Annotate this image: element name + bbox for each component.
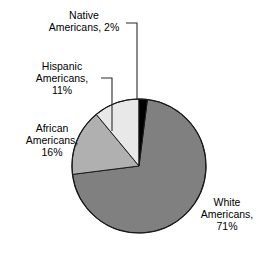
slice-label-hispanic-americans-line1: Hispanic (16, 60, 108, 72)
slice-label-white-americans-line2: Americans, (190, 208, 264, 220)
slice-label-hispanic-americans-line2: Americans, (16, 72, 108, 84)
slice-label-hispanic-americans: Hispanic Americans, 11% (16, 60, 108, 97)
slice-label-white-americans-line1: White (190, 196, 264, 208)
slice-label-white-americans: White Americans, 71% (190, 196, 264, 233)
slice-label-hispanic-americans-line3: 11% (16, 84, 108, 96)
slice-label-white-americans-line3: 71% (190, 220, 264, 232)
slice-label-african-americans-line1: African (8, 122, 96, 134)
slice-label-native-americans-line1: Native (36, 9, 132, 21)
slice-label-native-americans: Native Americans, 2% (36, 9, 132, 33)
pie-chart-figure: Native Americans, 2% Hispanic Americans,… (0, 0, 266, 254)
slice-label-native-americans-line2: Americans, 2% (36, 21, 132, 33)
leader-line-native-americans (126, 23, 137, 100)
slice-label-african-americans-line2: Americans, (8, 134, 96, 146)
pie-slices (72, 99, 206, 233)
slice-label-african-americans-line3: 16% (8, 146, 96, 158)
slice-label-african-americans: African Americans, 16% (8, 122, 96, 159)
